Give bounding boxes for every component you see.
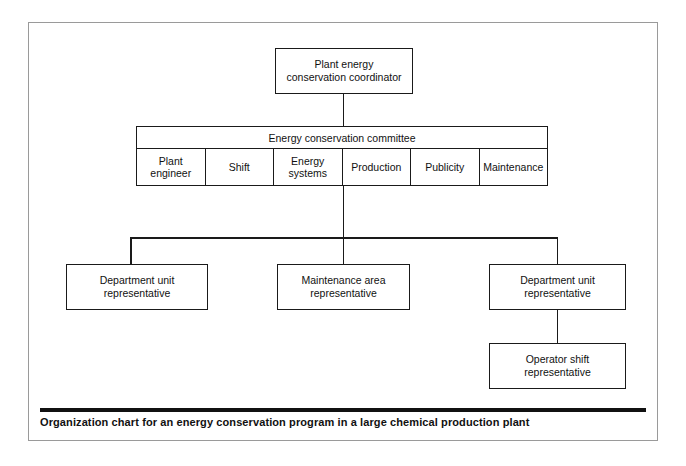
node-plant-energy-conservation-coordinator: Plant energy conservation coordinator xyxy=(275,48,413,94)
node-department-unit-representative-left: Department unit representative xyxy=(66,264,208,310)
node-label: Maintenance area representative xyxy=(297,274,389,300)
node-operator-shift-representative: Operator shift representative xyxy=(489,343,626,389)
node-maintenance-area-representative: Maintenance area representative xyxy=(277,264,410,310)
connector-root-to-committee xyxy=(343,94,345,126)
node-department-unit-representative-right: Department unit representative xyxy=(489,264,626,310)
node-label: Department unit representative xyxy=(516,274,599,300)
caption-rule xyxy=(40,408,646,412)
committee-columns: Plant engineer Shift Energy systems Prod… xyxy=(137,149,547,185)
committee-title: Energy conservation committee xyxy=(137,127,547,149)
committee-column-publicity: Publicity xyxy=(411,149,480,185)
committee-column-shift: Shift xyxy=(206,149,275,185)
connector-drop-left xyxy=(130,237,132,264)
node-label: Operator shift representative xyxy=(520,353,595,379)
committee-column-production: Production xyxy=(343,149,412,185)
node-label: Department unit representative xyxy=(96,274,179,300)
node-energy-conservation-committee: Energy conservation committee Plant engi… xyxy=(136,126,548,186)
connector-committee-trunk xyxy=(343,186,345,264)
committee-column-energy-systems: Energy systems xyxy=(274,149,343,185)
connector-drop-right xyxy=(557,237,559,264)
connector-horizontal-bus xyxy=(130,237,558,239)
organization-chart-figure: Plant energy conservation coordinator En… xyxy=(0,0,686,466)
connector-dept-right-to-operator xyxy=(557,310,559,343)
node-label: Plant energy conservation coordinator xyxy=(283,58,406,84)
committee-column-plant-engineer: Plant engineer xyxy=(137,149,206,185)
committee-column-maintenance: Maintenance xyxy=(480,149,548,185)
figure-caption: Organization chart for an energy conserv… xyxy=(40,415,650,430)
